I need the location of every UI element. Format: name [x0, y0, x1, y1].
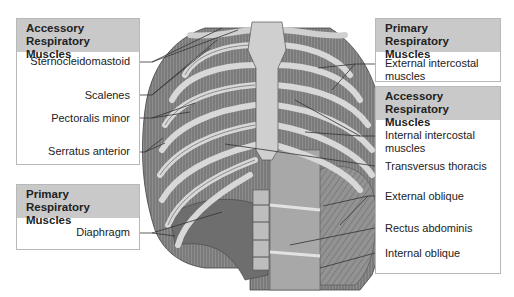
label-line-1: External intercostal	[385, 57, 479, 70]
label-line-1: Internal intercostal	[385, 129, 475, 142]
label-external-oblique: External oblique	[385, 190, 464, 203]
label-diaphragm: Diaphragm	[76, 226, 130, 239]
label-internal-intercostal-muscles: Internal intercostal muscles	[385, 129, 475, 155]
group-title-line-1: Primary	[385, 22, 492, 35]
label-line-2: muscles	[385, 70, 479, 83]
label-line-2: muscles	[385, 142, 475, 155]
group-title-line-1: Primary	[26, 188, 131, 201]
label-box-left-primary: Primary Respiratory Muscles	[16, 184, 140, 250]
group-title-line-2: Respiratory Muscles	[385, 103, 492, 129]
group-title-line-2: Respiratory Muscles	[26, 201, 131, 227]
label-box-right-accessory: Accessory Respiratory Muscles	[375, 86, 501, 274]
group-title: Accessory Respiratory Muscles	[376, 87, 500, 120]
group-title: Primary Respiratory Muscles	[376, 19, 500, 52]
label-sternocleidomastoid: Sternocleidomastoid	[30, 55, 130, 68]
label-rectus-abdominis: Rectus abdominis	[385, 222, 472, 235]
group-title-line-1: Accessory	[385, 90, 492, 103]
group-title: Accessory Respiratory Muscles	[17, 19, 139, 52]
label-pectoralis-minor: Pectoralis minor	[51, 112, 130, 125]
external-oblique-muscle	[318, 166, 376, 285]
rectus-abdominis-muscle	[270, 150, 320, 290]
label-scalenes: Scalenes	[85, 89, 130, 102]
label-external-intercostal-muscles: External intercostal muscles	[385, 57, 479, 83]
group-title-line-1: Accessory	[26, 22, 131, 35]
spine	[253, 190, 269, 270]
group-title: Primary Respiratory Muscles	[17, 185, 139, 218]
label-serratus-anterior: Serratus anterior	[48, 145, 130, 158]
label-transversus-thoracis: Transversus thoracis	[385, 160, 487, 173]
label-internal-oblique: Internal oblique	[385, 247, 460, 260]
